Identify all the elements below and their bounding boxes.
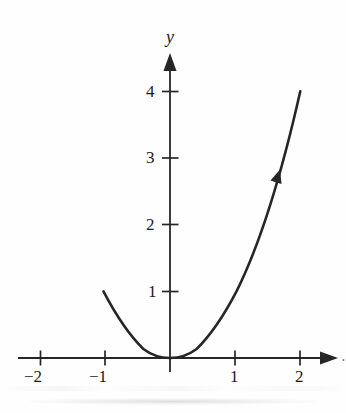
x-axis-arrowhead xyxy=(320,352,338,365)
parabola-figure: y 4 3 2 1 −2 −1 1 2 xyxy=(0,0,346,413)
x-tick-label--2: −2 xyxy=(24,368,42,385)
x-tick-label-1: 1 xyxy=(230,368,239,385)
y-tick-label-4: 4 xyxy=(146,83,155,100)
y-axis-label: y xyxy=(166,28,174,46)
parabola-curve xyxy=(104,91,301,358)
x-tick-label-2: 2 xyxy=(295,368,304,385)
x-axis-label-mark-icon xyxy=(342,359,344,361)
plot-canvas xyxy=(0,0,346,413)
x-tick-label--1: −1 xyxy=(89,368,107,385)
y-tick-label-2: 2 xyxy=(146,216,155,233)
y-axis-arrowhead xyxy=(164,53,177,71)
y-tick-label-1: 1 xyxy=(148,283,157,300)
curve-direction-arrowhead xyxy=(270,168,285,184)
y-tick-label-3: 3 xyxy=(146,149,155,166)
